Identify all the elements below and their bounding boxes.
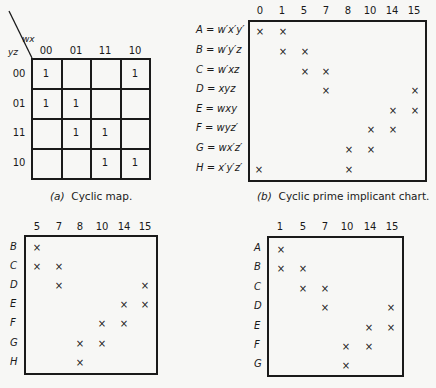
chart-c-mark: × bbox=[31, 262, 43, 272]
chart-b-col-label: 15 bbox=[406, 5, 422, 17]
chart-b-col-label: 10 bbox=[362, 5, 378, 17]
map-row-label: 10 bbox=[9, 157, 29, 169]
map-var-left: yz bbox=[8, 46, 18, 58]
chart-d-mark: × bbox=[297, 264, 309, 274]
chart-d-mark: × bbox=[319, 284, 331, 294]
chart-b-row-label: A = w′x′y′ bbox=[196, 24, 244, 36]
chart-b-col-label: 14 bbox=[384, 5, 400, 17]
chart-c-frame bbox=[24, 235, 158, 375]
chart-d-col-label: 15 bbox=[384, 221, 400, 233]
chart-b-row-label: D = xyz bbox=[196, 83, 236, 95]
chart-c-col-label: 14 bbox=[116, 221, 132, 233]
chart-c-col-label: 10 bbox=[94, 221, 110, 233]
chart-b-col-label: 0 bbox=[254, 5, 266, 17]
chart-b-mark: × bbox=[299, 67, 311, 77]
chart-b-col-label: 1 bbox=[276, 5, 288, 17]
chart-d-mark: × bbox=[340, 342, 352, 352]
chart-c-row-label: C bbox=[10, 260, 17, 272]
chart-c-row-label: E bbox=[10, 298, 16, 310]
chart-b-mark: × bbox=[254, 27, 266, 37]
map-row-label: 00 bbox=[9, 68, 29, 80]
chart-d-row-label: B bbox=[254, 261, 261, 273]
map-cell: 1 bbox=[99, 157, 111, 169]
map-cell: 1 bbox=[129, 68, 141, 80]
chart-d-mark: × bbox=[275, 264, 287, 274]
chart-c-mark: × bbox=[74, 339, 86, 349]
chart-c-mark: × bbox=[74, 358, 86, 368]
map-caption-prefix: (a) bbox=[50, 190, 65, 202]
map-cell: 1 bbox=[70, 127, 82, 139]
chart-d-frame bbox=[267, 236, 404, 377]
chart-c-mark: × bbox=[96, 339, 108, 349]
chart-b-mark: × bbox=[365, 125, 377, 135]
map-cell: 1 bbox=[40, 68, 52, 80]
chart-d-mark: × bbox=[385, 323, 397, 333]
chart-c-col-label: 15 bbox=[137, 221, 153, 233]
chart-c-mark: × bbox=[31, 243, 43, 253]
chart-d-col-label: 10 bbox=[339, 221, 355, 233]
chart-c-mark: × bbox=[53, 262, 65, 272]
chart-d-mark: × bbox=[363, 323, 375, 333]
map-caption: (a) Cyclic map. bbox=[50, 190, 132, 202]
chart-c-col-label: 8 bbox=[74, 221, 86, 233]
map-cell: 1 bbox=[129, 157, 141, 169]
chart-d-row-label: F bbox=[254, 339, 260, 351]
chart-b-mark: × bbox=[320, 67, 332, 77]
chart-d-mark: × bbox=[319, 303, 331, 313]
chart-c-row-label: F bbox=[10, 317, 16, 329]
map-col-label: 11 bbox=[95, 45, 115, 57]
chart-c-mark: × bbox=[96, 319, 108, 329]
chart-c-mark: × bbox=[139, 281, 151, 291]
chart-d-row-label: C bbox=[254, 281, 261, 293]
map-cell: 1 bbox=[99, 127, 111, 139]
chart-b-col-label: 8 bbox=[342, 5, 354, 17]
chart-b-row-label: G = wx′z′ bbox=[196, 142, 242, 154]
chart-d-row-label: E bbox=[254, 320, 260, 332]
map-cell: 1 bbox=[70, 98, 82, 110]
chart-b-mark: × bbox=[387, 106, 399, 116]
chart-c-row-label: D bbox=[10, 279, 18, 291]
chart-d-mark: × bbox=[275, 245, 287, 255]
map-row-label: 01 bbox=[9, 98, 29, 110]
chart-d-mark: × bbox=[340, 361, 352, 371]
chart-b-col-label: 5 bbox=[298, 5, 310, 17]
map-cell: 1 bbox=[40, 98, 52, 110]
chart-c-mark: × bbox=[139, 300, 151, 310]
chart-b-mark: × bbox=[387, 125, 399, 135]
chart-c-mark: × bbox=[118, 319, 130, 329]
chart-d-mark: × bbox=[297, 284, 309, 294]
chart-b-mark: × bbox=[343, 145, 355, 155]
map-row-label: 11 bbox=[9, 127, 29, 139]
map-grid-line bbox=[31, 118, 151, 120]
chart-b-mark: × bbox=[343, 165, 355, 175]
chart-d-mark: × bbox=[363, 342, 375, 352]
chart-d-row-label: D bbox=[254, 300, 262, 312]
chart-d-row-label: G bbox=[254, 358, 262, 370]
chart-b-caption-prefix: (b) bbox=[257, 190, 272, 202]
chart-b-row-label: B = w′y′z bbox=[196, 44, 241, 56]
chart-b-caption-text: Cyclic prime implicant chart. bbox=[279, 190, 430, 202]
map-col-label: 10 bbox=[125, 45, 145, 57]
chart-b-row-label: F = wyz′ bbox=[196, 122, 238, 134]
chart-b-row-label: E = wxy bbox=[196, 103, 237, 115]
chart-b-frame bbox=[248, 20, 427, 182]
map-var-top: wx bbox=[22, 33, 35, 45]
chart-c-mark: × bbox=[53, 281, 65, 291]
chart-b-mark: × bbox=[365, 145, 377, 155]
map-grid-line bbox=[31, 88, 151, 90]
chart-b-caption: (b) Cyclic prime implicant chart. bbox=[257, 190, 429, 202]
chart-d-mark: × bbox=[385, 303, 397, 313]
chart-b-mark: × bbox=[277, 47, 289, 57]
chart-d-col-label: 5 bbox=[297, 221, 309, 233]
chart-c-row-label: G bbox=[10, 337, 18, 349]
chart-d-col-label: 7 bbox=[319, 221, 331, 233]
chart-c-col-label: 5 bbox=[31, 221, 43, 233]
map-col-label: 00 bbox=[36, 45, 56, 57]
chart-b-mark: × bbox=[409, 106, 421, 116]
chart-c-col-label: 7 bbox=[53, 221, 65, 233]
chart-d-col-label: 14 bbox=[362, 221, 378, 233]
chart-c-row-label: B bbox=[10, 241, 17, 253]
chart-b-mark: × bbox=[277, 27, 289, 37]
chart-b-col-label: 7 bbox=[320, 5, 332, 17]
chart-b-mark: × bbox=[299, 47, 311, 57]
